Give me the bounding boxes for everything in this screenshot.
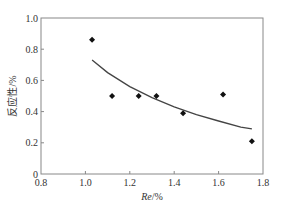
y-tick-label: 0.6 — [26, 75, 39, 86]
y-tick-label: 0.2 — [26, 137, 39, 148]
data-points — [89, 37, 255, 144]
x-axis-label: Re/% — [140, 191, 163, 202]
data-point-diamond — [89, 37, 95, 43]
x-tick-label: 1.2 — [124, 177, 137, 188]
plot-border — [41, 18, 263, 174]
plot-frame — [41, 18, 263, 174]
y-tick-label: 1.0 — [26, 13, 39, 24]
x-tick-label: 1.4 — [168, 177, 181, 188]
x-tick-label: 1.0 — [79, 177, 92, 188]
y-tick-label: 0.4 — [26, 106, 39, 117]
data-point-diamond — [136, 93, 142, 99]
data-point-diamond — [109, 93, 115, 99]
fit-curve — [92, 60, 252, 129]
data-point-diamond — [249, 138, 255, 144]
y-tick-label: 0.8 — [26, 44, 39, 55]
y-tick-label: 0 — [33, 169, 38, 180]
x-tick-label: 1.8 — [257, 177, 270, 188]
fit-line — [92, 60, 252, 129]
x-tick-label: 1.6 — [212, 177, 225, 188]
chart-canvas: 0.81.01.21.41.61.8 00.20.40.60.81.0 Re/%… — [0, 0, 285, 208]
y-axis-label: 反应性/% — [6, 75, 18, 116]
data-point-diamond — [220, 91, 226, 97]
